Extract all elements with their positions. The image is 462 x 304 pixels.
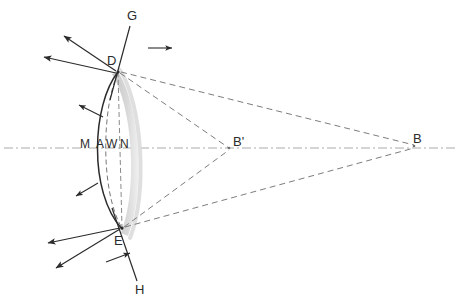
label-A: A (96, 138, 104, 150)
label-G: G (127, 9, 137, 22)
label-N: N (120, 138, 129, 150)
diagram-canvas: G D M A W N B' B E H (0, 0, 462, 304)
rays-to-b (121, 72, 414, 227)
label-W: W (106, 138, 117, 150)
arrow-D-left (44, 57, 116, 73)
arrows-from-E (48, 228, 120, 268)
ray-diagram-svg (0, 0, 462, 304)
ray-D-to-B (121, 72, 414, 145)
label-H: H (135, 283, 144, 296)
arrows-from-D (44, 36, 116, 73)
reflector-body-band (112, 70, 141, 238)
label-M: M (80, 138, 90, 150)
tick-arrow-lower-curve (76, 183, 98, 196)
label-D: D (107, 54, 116, 67)
tick-arrow-upper-curve (79, 105, 103, 117)
vertex-markers (116, 70, 415, 229)
vertex-Bprime (228, 147, 231, 150)
vertex-D (116, 70, 119, 73)
vertex-E (120, 226, 123, 229)
tick-arrow-H-line (106, 253, 130, 262)
ray-E-to-B (125, 148, 414, 227)
label-B: B (413, 132, 422, 145)
label-B-prime: B' (233, 135, 244, 148)
label-E: E (114, 234, 123, 247)
